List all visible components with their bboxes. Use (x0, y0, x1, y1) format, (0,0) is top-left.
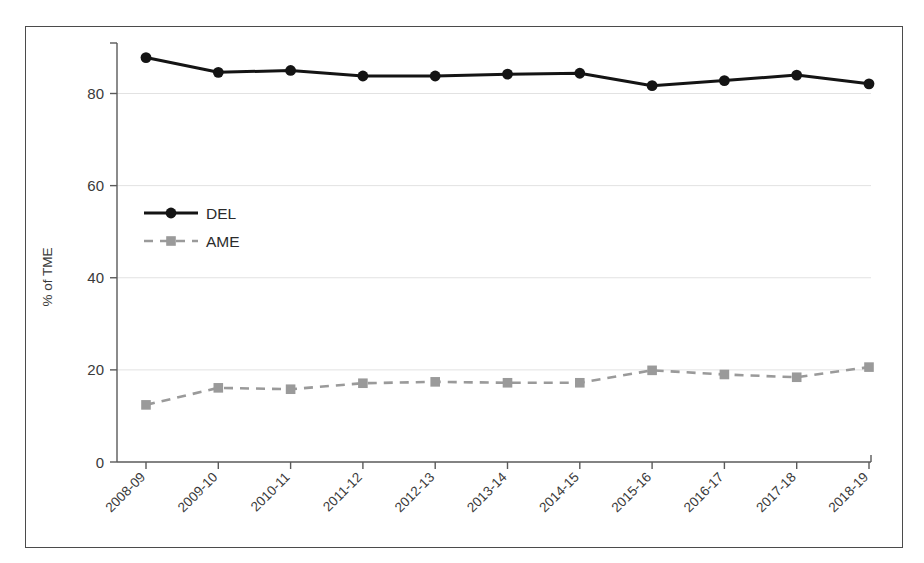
data-point-ame-2014-15 (575, 378, 585, 388)
line-chart-plot: 0204060802008-092009-102010-112011-12201… (26, 27, 901, 546)
x-tick-label-2015-16: 2015-16 (609, 470, 655, 516)
data-point-del-2011-12 (358, 71, 369, 82)
data-point-del-2018-19 (864, 78, 875, 89)
x-tick-label-2014-15: 2014-15 (536, 470, 582, 516)
data-point-del-2010-11 (285, 65, 296, 76)
y-tick-label-20: 20 (87, 361, 104, 378)
x-tick-label-2012-13: 2012-13 (392, 470, 438, 516)
chart-frame: 0204060802008-092009-102010-112011-12201… (25, 26, 903, 548)
legend-marker-ame (166, 236, 176, 246)
x-tick-label-2011-12: 2011-12 (320, 470, 365, 515)
data-point-del-2016-17 (719, 75, 730, 86)
data-point-del-2015-16 (647, 80, 658, 91)
x-tick-label-2013-14: 2013-14 (464, 469, 510, 515)
data-point-del-2017-18 (791, 70, 802, 81)
data-point-ame-2015-16 (647, 366, 657, 376)
data-point-ame-2009-10 (214, 383, 224, 393)
y-tick-label-40: 40 (87, 269, 104, 286)
chart-page: 0204060802008-092009-102010-112011-12201… (0, 0, 924, 563)
data-point-del-2008-09 (141, 52, 152, 63)
data-point-del-2012-13 (430, 71, 441, 82)
data-point-ame-2008-09 (141, 400, 151, 410)
data-point-ame-2011-12 (358, 378, 368, 388)
x-tick-label-2009-10: 2009-10 (175, 470, 221, 516)
x-tick-label-2010-11: 2010-11 (248, 470, 293, 515)
data-point-ame-2013-14 (503, 378, 513, 388)
data-point-ame-2012-13 (430, 377, 440, 387)
legend-marker-del (166, 208, 177, 219)
y-tick-label-80: 80 (87, 85, 104, 102)
data-point-ame-2010-11 (286, 384, 296, 394)
y-tick-label-0: 0 (96, 454, 104, 471)
data-point-del-2013-14 (502, 69, 513, 80)
y-axis-title: % of TME (40, 247, 55, 306)
data-point-ame-2017-18 (792, 372, 802, 382)
data-point-del-2014-15 (574, 68, 585, 79)
x-tick-label-2017-18: 2017-18 (753, 470, 799, 516)
legend-label-ame: AME (206, 233, 240, 250)
legend-label-del: DEL (206, 205, 237, 222)
x-tick-label-2008-09: 2008-09 (102, 470, 148, 516)
data-point-ame-2018-19 (864, 362, 874, 372)
x-tick-label-2016-17: 2016-17 (681, 470, 727, 516)
y-tick-label-60: 60 (87, 177, 104, 194)
data-point-del-2009-10 (213, 67, 224, 78)
x-tick-label-2018-19: 2018-19 (825, 470, 871, 516)
data-point-ame-2016-17 (720, 370, 730, 380)
